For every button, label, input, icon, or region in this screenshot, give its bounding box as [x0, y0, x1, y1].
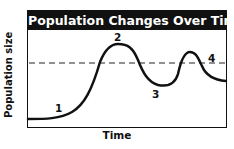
- point-label-2: 2: [114, 31, 121, 43]
- point-label-4: 4: [208, 52, 215, 64]
- y-axis-label: Population size: [3, 60, 14, 80]
- point-label-1: 1: [55, 102, 62, 114]
- point-label-3: 3: [152, 88, 159, 100]
- x-axis-label: Time: [0, 129, 234, 141]
- chart-plot: 1 2 3 4: [0, 0, 234, 149]
